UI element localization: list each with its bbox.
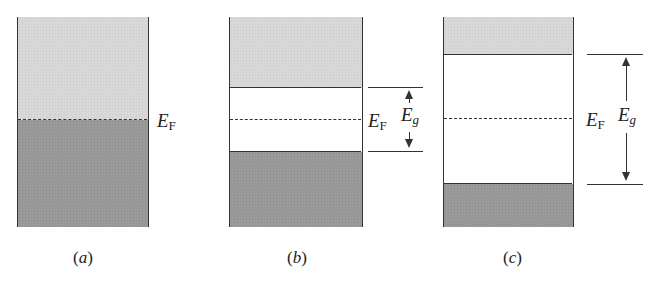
panel-a-metal [17,17,149,227]
gap-top-tick-b [368,87,423,88]
empty-band-a [18,17,148,120]
gap-arrow-down-icon-c [622,172,630,181]
fermi-label-a: EF [157,111,176,132]
fermi-level-line-b [230,119,361,120]
valence-edge-c [444,183,572,184]
gap-arrow-shaft-bottom-c [626,133,627,173]
panel-c-insulator [443,17,574,227]
gap-label-c: Eg [618,105,636,126]
gap-arrow-shaft-top-b [409,97,410,103]
gap-bottom-tick-c [587,184,643,185]
conduction-edge-b [230,87,361,88]
panel-b-semiconductor [229,17,363,227]
conduction-edge-c [444,54,572,55]
gap-label-b: Eg [401,105,419,126]
caption-a: (a) [73,248,93,268]
band-gap-c [444,55,573,184]
caption-b: (b) [287,248,307,268]
fermi-level-line-c [444,118,572,119]
gap-top-tick-c [587,54,643,55]
gap-arrow-shaft-top-c [626,64,627,101]
gap-arrow-down-icon-b [405,139,413,148]
gap-bottom-tick-b [368,151,423,152]
band-gap-b [230,88,362,152]
caption-c: (c) [503,248,522,268]
filled-band-a [18,120,148,227]
fermi-label-b: EF [368,111,387,132]
valence-edge-b [230,151,361,152]
fermi-label-c: EF [586,110,605,131]
conduction-band-c [444,17,573,55]
valence-band-c [444,184,573,227]
valence-band-b [230,152,362,227]
fermi-level-line-a [18,119,147,120]
conduction-band-b [230,17,362,88]
